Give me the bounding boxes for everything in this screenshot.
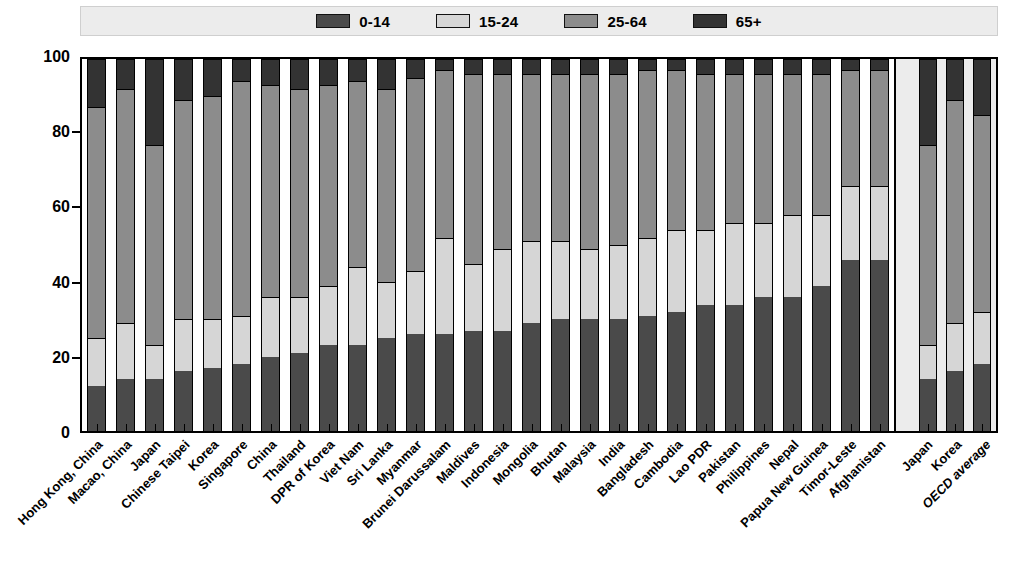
bar-segment-25-64 [552,74,569,241]
stacked-bar[interactable] [551,59,570,431]
bar-segment-65plus [378,59,395,89]
bar-segment-15-24 [233,316,250,364]
stacked-bar[interactable] [87,59,106,431]
stacked-bar[interactable] [580,59,599,431]
bar-segment-15-24 [204,319,221,367]
stacked-bar[interactable] [232,59,251,431]
legend-swatch-icon [316,14,350,28]
bar-segment-0-14 [552,319,569,431]
x-axis-tick-mark [213,424,214,432]
stacked-bar[interactable] [203,59,222,431]
bar-slot [314,59,343,431]
bar-segment-15-24 [175,319,192,371]
bar-slot [546,59,575,431]
bar-segment-15-24 [697,230,714,304]
x-axis-tick-mark [764,424,765,432]
stacked-bar[interactable] [435,59,454,431]
bar-segment-25-64 [871,70,888,185]
stacked-bar[interactable] [973,59,991,431]
bar-segment-65plus [668,59,685,70]
bar-segment-25-64 [581,74,598,249]
bar-segment-65plus [494,59,511,74]
x-label-slot: Cambodia [660,433,689,573]
stacked-bar[interactable] [870,59,889,431]
bar-segment-65plus [349,59,366,81]
stacked-bar[interactable] [174,59,193,431]
bar-segment-0-14 [233,364,250,431]
bar-segment-0-14 [581,319,598,431]
bar-segment-25-64 [117,89,134,323]
stacked-bar[interactable] [348,59,367,431]
stacked-bar[interactable] [319,59,338,431]
legend-label: 25-64 [607,13,646,30]
stacked-bar[interactable] [609,59,628,431]
bar-segment-25-64 [523,74,540,241]
bar-segment-25-64 [784,74,801,215]
legend-entry-0-14[interactable]: 0-14 [316,13,390,30]
x-label-slot: Myanmar [399,433,428,573]
bar-segment-65plus [204,59,221,96]
stacked-bar[interactable] [946,59,964,431]
bar-segment-0-14 [610,319,627,431]
bar-segment-65plus [920,59,936,145]
bar-segment-15-24 [552,241,569,319]
bar-segment-0-14 [668,312,685,431]
bar-segment-15-24 [407,271,424,334]
bar-segment-0-14 [349,345,366,431]
stacked-bar[interactable] [783,59,802,431]
x-axis-tick-mark [329,424,330,432]
bar-slot [836,59,865,431]
bar-slot [111,59,140,431]
bar-segment-0-14 [947,371,963,431]
bar-segment-15-24 [639,238,656,316]
bar-segment-65plus [146,59,163,145]
stacked-bar[interactable] [841,59,860,431]
bar-segment-65plus [320,59,337,85]
bar-segment-65plus [726,59,743,74]
stacked-bar[interactable] [667,59,686,431]
bar-segment-0-14 [755,297,772,431]
stacked-bar[interactable] [116,59,135,431]
stacked-bar[interactable] [638,59,657,431]
y-axis-tick-label: 20 [52,349,70,367]
bar-slot [198,59,227,431]
stacked-bar[interactable] [406,59,425,431]
bar-segment-0-14 [726,305,743,431]
population-age-structure-chart: 0-1415-2425-6465+ 100806040200 Hong Kong… [0,0,1025,573]
stacked-bar[interactable] [377,59,396,431]
x-label-slot: Chinese Taipei [167,433,196,573]
stacked-bar[interactable] [754,59,773,431]
x-label-slot: Bangladesh [631,433,660,573]
stacked-bar[interactable] [725,59,744,431]
stacked-bar[interactable] [290,59,309,431]
bar-segment-15-24 [523,241,540,323]
stacked-bar[interactable] [261,59,280,431]
legend-entry-25-64[interactable]: 25-64 [564,13,646,30]
bar-slot [969,59,996,431]
stacked-bar[interactable] [145,59,164,431]
legend-entry-65plus[interactable]: 65+ [693,13,762,30]
bar-segment-25-64 [291,89,308,297]
bar-segment-0-14 [465,331,482,431]
bar-slot [778,59,807,431]
stacked-bar[interactable] [696,59,715,431]
stacked-bar[interactable] [493,59,512,431]
bar-segment-25-64 [262,85,279,297]
bar-segment-0-14 [974,364,990,431]
legend-entry-15-24[interactable]: 15-24 [436,13,518,30]
x-axis-labels: Hong Kong, ChinaMacao, ChinaJapanChinese… [80,433,998,573]
bar-slot [227,59,256,431]
bar-segment-25-64 [146,145,163,346]
bar-slot [633,59,662,431]
bar-segment-15-24 [871,186,888,260]
bar-segment-0-14 [262,357,279,431]
stacked-bar[interactable] [522,59,541,431]
stacked-bar[interactable] [812,59,831,431]
stacked-bar[interactable] [464,59,483,431]
x-axis-tick-mark [155,424,156,432]
bar-segment-0-14 [291,353,308,431]
stacked-bar[interactable] [919,59,937,431]
x-axis-tick-mark [880,424,881,432]
x-axis-tick-mark [416,424,417,432]
bar-segment-15-24 [378,282,395,338]
